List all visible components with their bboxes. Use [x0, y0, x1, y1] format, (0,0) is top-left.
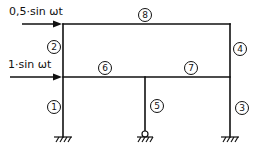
member-number-3: 3: [235, 101, 249, 115]
load-arrow-middle: [10, 74, 62, 81]
member-number-5: 5: [150, 99, 164, 113]
fixed-support-right-icon: [221, 137, 239, 142]
load-label-middle: 1·sin ωt: [8, 59, 51, 70]
pin-support-middle-icon: [137, 131, 153, 142]
load-label-top: 0,5·sin ωt: [9, 6, 63, 17]
member-number-8: 8: [138, 8, 152, 22]
member-number-7: 7: [184, 61, 198, 75]
frame-diagram: [0, 0, 263, 151]
member-number-2: 2: [47, 40, 61, 54]
member-number-1: 1: [47, 100, 61, 114]
member-number-6: 6: [98, 61, 112, 75]
fixed-support-left-icon: [54, 137, 72, 142]
member-number-4: 4: [233, 42, 247, 56]
load-arrow-top: [22, 21, 62, 28]
